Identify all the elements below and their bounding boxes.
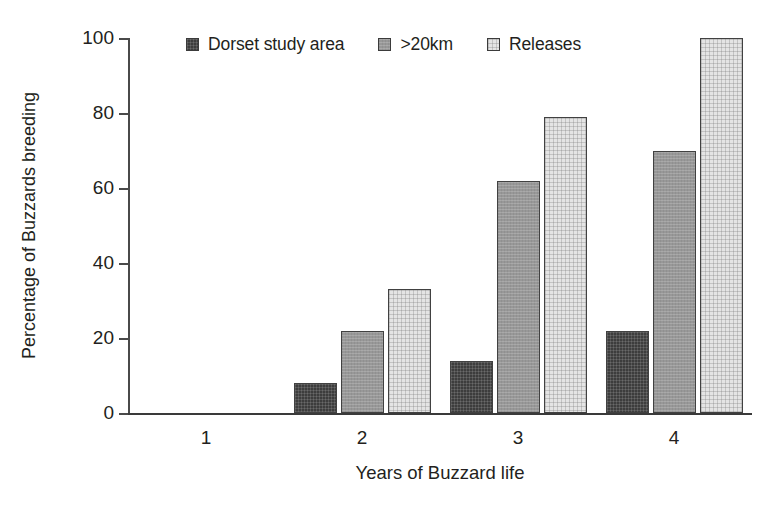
bar-group [596, 38, 752, 413]
bar-group [440, 38, 596, 413]
y-axis-tick-mark [119, 263, 128, 265]
bar-group [128, 38, 284, 413]
bar [294, 383, 337, 413]
bar [653, 151, 696, 414]
y-axis-tick-label: 0 [103, 402, 114, 424]
y-axis-tick-mark [119, 338, 128, 340]
bar [544, 117, 587, 413]
y-axis-tick-mark [119, 38, 128, 40]
plot-area: 020406080100 1234 Years of Buzzard life [128, 38, 752, 413]
bar [341, 331, 384, 414]
bar-group [284, 38, 440, 413]
y-axis-tick-label: 100 [82, 27, 114, 49]
bar [700, 38, 743, 413]
x-axis-tick-label: 4 [669, 427, 680, 449]
y-axis-tick-label: 40 [93, 252, 114, 274]
y-axis-tick-mark [119, 188, 128, 190]
bar [450, 361, 493, 414]
x-axis-tick-label: 2 [357, 427, 368, 449]
y-axis-title: Percentage of Buzzards breeding [18, 38, 42, 413]
bar-groups [128, 38, 752, 413]
bar-chart: Dorset study area >20km Releases Percent… [0, 0, 776, 505]
x-axis-tick-label: 3 [513, 427, 524, 449]
y-axis-tick-label: 80 [93, 102, 114, 124]
bar [388, 289, 431, 413]
y-axis-title-text: Percentage of Buzzards breeding [20, 92, 41, 359]
y-axis-tick-label: 60 [93, 177, 114, 199]
y-axis-tick-mark [119, 113, 128, 115]
x-axis-title: Years of Buzzard life [128, 462, 752, 484]
x-axis-tick-label: 1 [201, 427, 212, 449]
y-axis-tick-mark [119, 413, 128, 415]
bar [606, 331, 649, 414]
x-axis-line [128, 413, 752, 415]
y-axis-tick-label: 20 [93, 327, 114, 349]
bar [497, 181, 540, 414]
